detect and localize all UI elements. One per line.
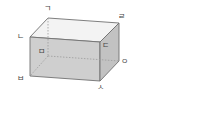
front-face [30,37,100,81]
vertex-label-giyeok: ㄱ [44,5,51,13]
vertex-label-siot: ㅅ [97,84,104,92]
vertex-label-bieup: ㅂ [17,75,24,83]
vertex-label-rieul: ㄹ [118,13,125,21]
vertex-label-nieun: ㄴ [17,33,24,41]
cuboid-figure [0,0,212,124]
cuboid-diagram: ㄱ ㄴ ㄷ ㄹ ㅁ ㅂ ㅅ ㅇ [0,0,212,124]
vertex-label-digeut: ㄷ [102,42,109,50]
vertex-label-ieung: ㅇ [121,58,128,66]
vertex-label-mieum: ㅁ [38,48,45,56]
